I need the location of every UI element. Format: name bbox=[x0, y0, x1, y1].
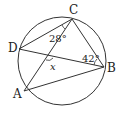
segment-ab bbox=[24, 67, 104, 91]
point-label-a: A bbox=[12, 87, 22, 101]
angle-label-42: 42° bbox=[82, 53, 100, 64]
angle-label-x: x bbox=[50, 61, 56, 72]
angle-label-28: 28° bbox=[49, 33, 67, 44]
geometry-diagram: C D B A 28° 42° x bbox=[0, 0, 123, 116]
angle-arc-c bbox=[62, 25, 65, 29]
point-label-c: C bbox=[69, 3, 78, 17]
point-label-d: D bbox=[8, 41, 18, 55]
point-label-b: B bbox=[107, 61, 116, 75]
